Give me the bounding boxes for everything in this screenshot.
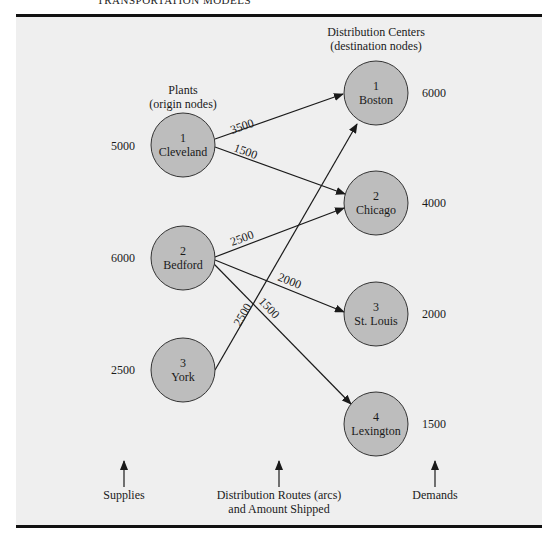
supply-york: 2500 [103,363,143,377]
node-id: 1 [143,131,223,145]
arc-bedford-stlouis [215,260,344,312]
plants-heading: Plants (origin nodes) [133,83,233,111]
node-id: 3 [336,300,416,314]
footer-routes: Distribution Routes (arcs) and Amount Sh… [199,488,359,516]
footer-demands: Demands [400,488,470,502]
plants-subtitle: (origin nodes) [133,97,233,111]
node-name: Boston [336,93,416,107]
demand-chicago: 4000 [414,196,454,210]
node-id: 2 [143,244,223,258]
arc-label-bedford-chicago: 2500 [228,227,255,248]
node-id: 4 [336,410,416,424]
network-diagram: 3500 1500 2500 2000 1500 2500 [0,0,558,538]
node-id: 2 [336,189,416,203]
arc-label-bedford-stlouis: 2000 [276,270,303,292]
footer-supplies: Supplies [89,488,159,502]
footer-routes-line2: and Amount Shipped [199,502,359,516]
supply-bedford: 6000 [103,251,143,265]
node-name: Cleveland [143,145,223,159]
arc-label-cleveland-boston: 3500 [228,116,255,137]
node-label-lexington: 4 Lexington [336,410,416,438]
node-name: Bedford [143,258,223,272]
arc-label-bedford-lexington: 1500 [256,294,283,321]
node-name: Chicago [336,203,416,217]
node-name: St. Louis [336,314,416,328]
footer-routes-line1: Distribution Routes (arcs) [199,488,359,502]
centers-title: Distribution Centers [306,25,446,39]
supply-cleveland: 5000 [103,139,143,153]
node-label-stlouis: 3 St. Louis [336,300,416,328]
node-label-chicago: 2 Chicago [336,189,416,217]
arc-label-cleveland-chicago: 1500 [232,141,259,162]
arc-label-york-boston: 2500 [230,301,254,329]
plants-title: Plants [133,83,233,97]
demand-lexington: 1500 [414,417,454,431]
demand-boston: 6000 [414,86,454,100]
node-name: York [143,370,223,384]
node-id: 1 [336,79,416,93]
node-label-boston: 1 Boston [336,79,416,107]
node-id: 3 [143,356,223,370]
demand-stlouis: 2000 [414,307,454,321]
node-label-bedford: 2 Bedford [143,244,223,272]
node-name: Lexington [336,424,416,438]
node-label-york: 3 York [143,356,223,384]
centers-subtitle: (destination nodes) [306,39,446,53]
node-label-cleveland: 1 Cleveland [143,131,223,159]
centers-heading: Distribution Centers (destination nodes) [306,25,446,53]
